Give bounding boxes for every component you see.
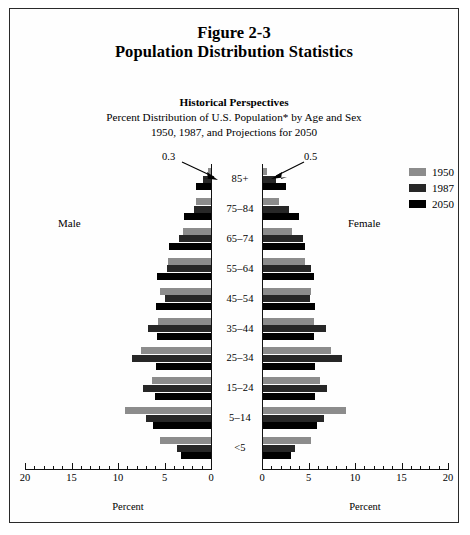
bar-female-1950-2534 [262, 347, 331, 354]
legend: 1950 1987 2050 [409, 165, 454, 213]
left-axis-tick-3 [183, 466, 184, 470]
right-axis-tick-11 [364, 466, 365, 470]
left-axis-tick-8 [137, 466, 138, 470]
bar-male-1987-5 [177, 445, 211, 452]
bar-female-2050-6574 [262, 243, 305, 250]
bar-male-1987-6574 [179, 235, 211, 242]
right-zero-axis [262, 164, 263, 469]
bar-female-1950-3544 [262, 318, 314, 325]
right-axis-baseline [262, 469, 449, 470]
male-85plus-callout-label: 0.3 [162, 151, 175, 162]
age-label-5: <5 [212, 442, 268, 453]
bar-male-1950-4554 [160, 288, 211, 295]
bar-male-1950-7584 [196, 198, 211, 205]
right-axis-tick-0 [262, 463, 263, 469]
female-label: Female [348, 217, 380, 229]
bar-male-2050-1524 [155, 393, 211, 400]
right-axis-tick-16 [411, 466, 412, 470]
bar-female-2050-1524 [262, 393, 315, 400]
bar-female-2050-5 [262, 452, 291, 459]
population-pyramid-plot: 85+75–8465–7455–6445–5435–4425–3415–245–… [10, 9, 460, 524]
legend-label-2050: 2050 [432, 198, 454, 210]
right-axis-tick-4 [299, 466, 300, 470]
bar-male-1987-2534 [132, 355, 211, 362]
bar-male-2050-7584 [184, 213, 211, 220]
left-axis-baseline [25, 469, 212, 470]
bar-male-2050-514 [153, 422, 211, 429]
right-axis-tick-13 [383, 466, 384, 470]
bar-male-1987-1524 [143, 385, 211, 392]
bar-male-1950-2534 [141, 347, 211, 354]
right-axis-tick-15 [402, 463, 403, 469]
bar-male-2050-5 [181, 452, 211, 459]
right-axis-tick-14 [392, 466, 393, 470]
bar-female-1987-1524 [262, 385, 327, 392]
age-label-2534: 25–34 [212, 352, 268, 363]
left-axis-tick-0 [211, 463, 212, 469]
left-axis-ticklabel-20: 20 [13, 472, 37, 483]
age-label-6574: 65–74 [212, 233, 268, 244]
right-axis-ticklabel-20: 20 [436, 472, 460, 483]
right-axis-tick-12 [374, 466, 375, 470]
male-label: Male [58, 217, 81, 229]
right-axis-caption: Percent [335, 501, 395, 512]
bar-female-2050-7584 [262, 213, 299, 220]
age-label-7584: 75–84 [212, 203, 268, 214]
right-axis-ticklabel-5: 5 [297, 472, 321, 483]
age-label-514: 5–14 [212, 412, 268, 423]
bar-male-1987-3544 [148, 325, 211, 332]
left-axis-tick-9 [127, 466, 128, 470]
bar-male-1950-6574 [183, 228, 211, 235]
bar-female-1950-1524 [262, 377, 320, 384]
bar-female-1950-5564 [262, 258, 305, 265]
legend-item-1987: 1987 [409, 181, 454, 195]
left-axis-ticklabel-5: 5 [153, 472, 177, 483]
left-axis-ticklabel-15: 15 [60, 472, 84, 483]
age-label-3544: 35–44 [212, 323, 268, 334]
male-85plus-callout-arrow [180, 159, 228, 185]
left-axis-tick-1 [202, 466, 203, 470]
left-axis-tick-11 [109, 466, 110, 470]
bar-female-1987-3544 [262, 325, 326, 332]
bar-female-1987-2534 [262, 355, 342, 362]
bar-male-1987-514 [146, 415, 211, 422]
left-axis-tick-10 [118, 463, 119, 469]
left-axis-tick-6 [155, 466, 156, 470]
legend-swatch-1987 [409, 184, 426, 192]
legend-swatch-1950 [409, 168, 426, 176]
bar-male-2050-4554 [156, 303, 211, 310]
age-label-5564: 55–64 [212, 263, 268, 274]
left-axis-tick-18 [44, 466, 45, 470]
left-axis-tick-15 [72, 463, 73, 469]
bar-female-2050-4554 [262, 303, 315, 310]
left-axis-tick-17 [53, 466, 54, 470]
figure-frame: Figure 2-3 Population Distribution Stati… [9, 8, 459, 523]
age-label-4554: 45–54 [212, 293, 268, 304]
bar-male-2050-3544 [157, 333, 211, 340]
left-axis-tick-5 [165, 463, 166, 469]
right-axis-tick-20 [448, 463, 449, 469]
age-label-1524: 15–24 [212, 382, 268, 393]
right-axis-ticklabel-15: 15 [390, 472, 414, 483]
female-85plus-callout-arrow [266, 159, 314, 185]
right-axis-tick-9 [346, 466, 347, 470]
left-axis-tick-7 [146, 466, 147, 470]
bar-female-1987-6574 [262, 235, 303, 242]
left-axis-tick-12 [99, 466, 100, 470]
legend-label-1987: 1987 [432, 182, 454, 194]
bar-male-1950-3544 [158, 318, 211, 325]
right-axis-tick-7 [327, 466, 328, 470]
legend-label-1950: 1950 [432, 166, 454, 178]
bar-male-1987-5564 [167, 265, 211, 272]
bar-female-2050-2534 [262, 363, 315, 370]
right-axis-ticklabel-10: 10 [343, 472, 367, 483]
bar-male-1950-5 [160, 437, 211, 444]
bar-female-1950-514 [262, 407, 346, 414]
right-axis-tick-8 [336, 466, 337, 470]
bar-female-1987-5564 [262, 265, 311, 272]
legend-item-1950: 1950 [409, 165, 454, 179]
legend-item-2050: 2050 [409, 197, 454, 211]
left-axis-ticklabel-10: 10 [106, 472, 130, 483]
bar-female-2050-5564 [262, 273, 314, 280]
right-axis-tick-17 [420, 466, 421, 470]
